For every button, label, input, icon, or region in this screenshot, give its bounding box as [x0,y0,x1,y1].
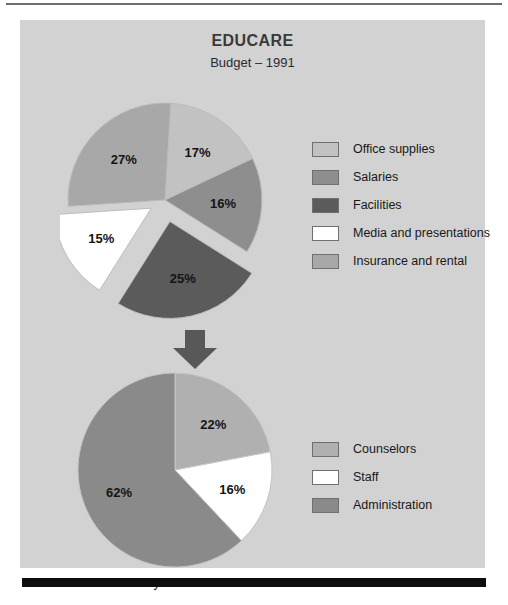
legend-label-staff: Staff [353,470,378,484]
pie-label-media-and-presentations: 15% [88,231,114,246]
legend-label-office-supplies: Office supplies [353,142,435,156]
salary-legend: Counselors Staff Administration [312,435,432,519]
legend-item-media-and-presentations: Media and presentations [312,219,490,247]
pie-label-administration: 62% [106,485,132,500]
legend-label-counselors: Counselors [353,442,416,456]
legend-item-staff: Staff [312,463,432,491]
pie-label-staff: 16% [219,482,245,497]
legend-label-administration: Administration [353,498,432,512]
legend-item-insurance-and-rental: Insurance and rental [312,247,490,275]
page-subtitle: Budget – 1991 [20,55,485,70]
legend-label-facilities: Facilities [353,198,402,212]
downward-arrow-icon [172,330,218,370]
legend-swatch-insurance-and-rental [312,254,339,269]
legend-swatch-media-and-presentations [312,226,339,241]
bottom-bar [22,578,486,587]
budget-pie-svg: 17% 16% 25% 15% 27% [60,82,280,332]
pie-label-counselors: 22% [200,417,226,432]
legend-item-office-supplies: Office supplies [312,135,490,163]
title-block: EDUCARE Budget – 1991 [20,32,485,70]
pie-label-salaries: 16% [210,196,236,211]
downward-arrow-svg [172,330,218,370]
budget-legend: Office supplies Salaries Facilities Medi… [312,135,490,275]
arrow-shape [173,330,217,369]
legend-swatch-administration [312,498,339,513]
budget-pie-chart: 17% 16% 25% 15% 27% [60,82,280,332]
pie-label-office-supplies: 17% [185,145,211,160]
salary-pie-svg: 22% 16% 62% [75,370,275,570]
legend-item-facilities: Facilities [312,191,490,219]
legend-item-salaries: Salaries [312,163,490,191]
pie-label-insurance-and-rental: 27% [111,152,137,167]
salary-pie-chart: 22% 16% 62% [75,370,275,570]
page-title: EDUCARE [20,32,485,50]
top-rule [6,3,502,5]
legend-swatch-facilities [312,198,339,213]
legend-swatch-staff [312,470,339,485]
chart-panel: EDUCARE Budget – 1991 17% 16% 25% 15% 27… [20,20,485,568]
legend-label-media-and-presentations: Media and presentations [353,226,490,240]
legend-label-salaries: Salaries [353,170,398,184]
pie-label-facilities: 25% [170,271,196,286]
legend-swatch-counselors [312,442,339,457]
legend-swatch-office-supplies [312,142,339,157]
legend-swatch-salaries [312,170,339,185]
legend-item-counselors: Counselors [312,435,432,463]
salary-pie-slices [78,373,272,567]
legend-label-insurance-and-rental: Insurance and rental [353,254,467,268]
legend-item-administration: Administration [312,491,432,519]
